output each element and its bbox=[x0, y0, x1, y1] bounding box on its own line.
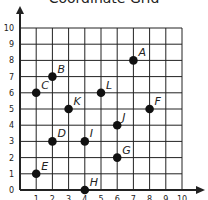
y-tick-label: 4 bbox=[9, 121, 14, 130]
x-tick-label: 7 bbox=[131, 195, 136, 200]
point-label: F bbox=[155, 95, 162, 108]
point-label: B bbox=[57, 63, 65, 76]
point-k bbox=[64, 105, 73, 114]
x-tick-label: 8 bbox=[147, 195, 152, 200]
point-label: L bbox=[106, 79, 112, 92]
point-label: I bbox=[90, 127, 93, 140]
point-h bbox=[81, 186, 90, 195]
point-i bbox=[81, 137, 90, 146]
point-label: D bbox=[57, 127, 65, 140]
point-g bbox=[113, 153, 122, 162]
y-tick-label: 3 bbox=[9, 137, 14, 146]
point-label: A bbox=[137, 46, 146, 59]
point-label: E bbox=[41, 160, 48, 173]
y-tick-label: 0 bbox=[9, 186, 14, 195]
point-d bbox=[48, 137, 57, 146]
coordinate-grid: 01234567891012345678910ABCDEFGHIJKL bbox=[0, 0, 208, 200]
y-tick-label: 8 bbox=[9, 56, 14, 65]
y-axis-arrow-icon bbox=[16, 6, 24, 14]
point-c bbox=[32, 89, 41, 98]
point-j bbox=[113, 121, 122, 130]
x-tick-label: 2 bbox=[50, 195, 55, 200]
x-tick-label: 4 bbox=[82, 195, 87, 200]
point-label: G bbox=[122, 144, 131, 157]
x-axis-arrow-icon bbox=[196, 186, 205, 194]
point-label: H bbox=[90, 176, 98, 189]
point-b bbox=[48, 72, 57, 81]
point-label: K bbox=[74, 95, 82, 108]
y-tick-label: 10 bbox=[4, 24, 14, 33]
x-tick-label: 6 bbox=[115, 195, 120, 200]
point-e bbox=[32, 170, 41, 179]
x-tick-label: 10 bbox=[177, 195, 187, 200]
y-tick-label: 7 bbox=[9, 73, 14, 82]
point-label: J bbox=[120, 111, 125, 124]
y-tick-label: 6 bbox=[9, 89, 14, 98]
y-tick-label: 1 bbox=[9, 170, 14, 179]
y-tick-label: 5 bbox=[9, 105, 14, 114]
y-tick-label: 9 bbox=[9, 40, 14, 49]
x-tick-label: 9 bbox=[163, 195, 168, 200]
point-a bbox=[129, 56, 138, 65]
x-tick-label: 3 bbox=[66, 195, 71, 200]
point-f bbox=[145, 105, 154, 114]
point-l bbox=[97, 89, 106, 98]
x-tick-label: 1 bbox=[34, 195, 39, 200]
x-tick-label: 5 bbox=[98, 195, 103, 200]
y-tick-label: 2 bbox=[9, 154, 14, 163]
point-label: C bbox=[41, 79, 49, 92]
